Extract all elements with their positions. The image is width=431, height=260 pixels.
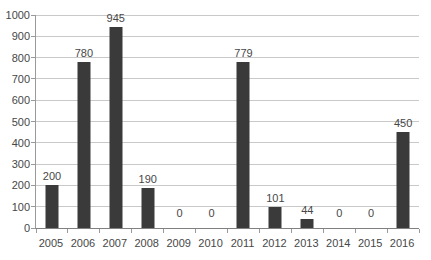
bar-slot-2005: 200 [36,15,68,228]
plot-area: 200780945190007791014400450 [35,15,419,229]
x-label-2005: 2005 [35,237,67,250]
y-tick-200 [31,185,35,186]
y-tick-100 [31,206,35,207]
y-tick-900 [31,36,35,37]
x-axis-labels: 2005200620072008200920102011201220132014… [35,237,418,250]
bar-series: 200780945190007791014400450 [36,15,419,228]
x-tick-11 [387,229,388,233]
y-tick-600 [31,100,35,101]
bar-slot-2016: 450 [387,15,419,228]
data-label-2011: 779 [234,47,252,59]
x-label-2011: 2011 [227,237,259,250]
x-label-2006: 2006 [67,237,99,250]
bar-2007 [109,27,122,228]
x-tick-7 [259,229,260,233]
data-label-2005: 200 [43,170,61,182]
y-tick-label: 200 [0,179,30,191]
y-tick-0 [31,228,35,229]
y-tick-800 [31,57,35,58]
y-tick-700 [31,78,35,79]
y-tick-label: 300 [0,158,30,170]
bar-chart: 200780945190007791014400450 200520062007… [0,0,431,260]
x-label-2012: 2012 [258,237,290,250]
bar-2012 [269,207,282,229]
bar-2011 [237,62,250,228]
x-label-2008: 2008 [131,237,163,250]
y-tick-400 [31,142,35,143]
data-label-2014: 0 [336,207,342,219]
y-tick-1000 [31,15,35,16]
bar-slot-2010: 0 [196,15,228,228]
y-tick-500 [31,121,35,122]
y-tick-label: 400 [0,137,30,149]
data-label-2012: 101 [266,192,284,204]
x-label-2015: 2015 [354,237,386,250]
bar-slot-2007: 945 [100,15,132,228]
bar-2008 [141,188,154,228]
bar-slot-2013: 44 [291,15,323,228]
x-label-2016: 2016 [386,237,418,250]
x-tick-4 [163,229,164,233]
x-tick-10 [355,229,356,233]
x-tick-5 [195,229,196,233]
bar-2013 [301,219,314,228]
x-tick-12 [419,229,420,233]
x-tick-0 [36,229,37,233]
y-tick-label: 500 [0,116,30,128]
y-tick-300 [31,164,35,165]
bar-slot-2011: 779 [228,15,260,228]
y-tick-label: 600 [0,94,30,106]
x-label-2007: 2007 [99,237,131,250]
bar-2016 [397,132,410,228]
bar-2005 [45,185,58,228]
data-label-2010: 0 [209,207,215,219]
bar-2006 [77,62,90,228]
x-tick-9 [323,229,324,233]
y-tick-label: 100 [0,201,30,213]
x-label-2009: 2009 [163,237,195,250]
bar-slot-2014: 0 [323,15,355,228]
bar-slot-2008: 190 [132,15,164,228]
y-tick-label: 1000 [0,9,30,21]
y-tick-label: 800 [0,52,30,64]
data-label-2013: 44 [301,204,313,216]
x-tick-3 [131,229,132,233]
x-label-2014: 2014 [322,237,354,250]
data-label-2015: 0 [368,207,374,219]
bar-slot-2015: 0 [355,15,387,228]
bar-slot-2009: 0 [164,15,196,228]
x-label-2013: 2013 [290,237,322,250]
y-tick-label: 900 [0,30,30,42]
x-tick-1 [67,229,68,233]
data-label-2007: 945 [107,12,125,24]
data-label-2016: 450 [394,117,412,129]
x-tick-2 [99,229,100,233]
x-tick-6 [227,229,228,233]
y-tick-label: 0 [0,222,30,234]
x-tick-8 [291,229,292,233]
data-label-2006: 780 [75,47,93,59]
data-label-2008: 190 [139,173,157,185]
y-tick-label: 700 [0,73,30,85]
bar-slot-2012: 101 [259,15,291,228]
bar-slot-2006: 780 [68,15,100,228]
x-label-2010: 2010 [195,237,227,250]
data-label-2009: 0 [177,207,183,219]
